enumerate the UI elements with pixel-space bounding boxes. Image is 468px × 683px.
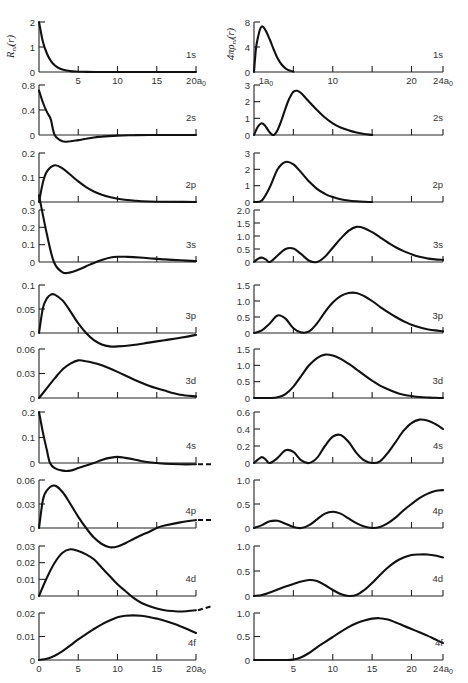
panel-left-2s: 00.40.82s (22, 80, 196, 142)
panel-left-3d: 00.030.063d (17, 344, 197, 404)
y-tick-label: 0.03 (17, 541, 36, 552)
orbital-label: 4d (185, 573, 196, 584)
x-tick-label: 5 (291, 663, 296, 674)
y-tick-label: 0.5 (237, 244, 250, 255)
panel-right-2s: 01232s (245, 80, 444, 141)
panel-left-1s: 0121s5101520a0 (30, 17, 206, 88)
orbital-label: 2s (433, 112, 443, 123)
panel-right-3d: 00.51.01.53d (237, 344, 443, 404)
y-tick-label: 0.5 (237, 376, 250, 387)
y-tick-label: 0.5 (237, 631, 250, 642)
y-tick-label: 0 (245, 523, 250, 534)
y-tick-label: 0 (245, 67, 250, 78)
curve-4d (254, 554, 443, 596)
orbital-label: 4s (433, 440, 443, 451)
orbital-label: 3p (185, 310, 196, 321)
x-tick-label: 20 (406, 75, 417, 86)
y-tick-label: 2 (245, 96, 250, 107)
orbital-label: 2s (186, 112, 196, 123)
y-tick-label: 1.5 (237, 344, 250, 355)
y-tick-label: 0 (30, 591, 35, 602)
y-tick-label: 0.4 (22, 105, 35, 116)
y-tick-label: 0 (245, 257, 250, 268)
y-tick-label: 0.06 (17, 344, 36, 355)
orbital-label: 4f (435, 637, 443, 648)
curve-1s (254, 26, 293, 72)
curve-4s (254, 419, 443, 463)
panel-right-3p: 00.51.01.53p (237, 280, 443, 339)
orbital-label: 4p (432, 505, 443, 516)
x-tick-label: 10 (112, 75, 123, 86)
y-tick-label: 0.3 (22, 205, 35, 216)
panel-left-4d: 00.010.020.034d (17, 541, 213, 612)
x-tick-label: 15 (151, 75, 162, 86)
y-tick-label: 0 (30, 257, 35, 268)
y-tick-label: 0 (245, 328, 250, 339)
continuation-dash (198, 606, 212, 610)
y-tick-label: 0 (30, 130, 35, 141)
y-tick-label: 2 (245, 164, 250, 175)
y-tick-label: 0.02 (17, 608, 36, 619)
panel-right-4s: 00.20.40.64s (237, 407, 443, 469)
curve-2p (254, 162, 372, 202)
orbital-label: 3s (186, 239, 196, 250)
y-tick-label: 1.0 (237, 608, 250, 619)
y-tick-label: 0 (245, 130, 250, 141)
curve-4d (39, 549, 196, 611)
y-tick-label: 0.2 (237, 441, 250, 452)
y-tick-label: 1 (30, 42, 35, 53)
orbital-label: 2p (185, 179, 196, 190)
y-tick-label: 4 (245, 42, 250, 53)
x-tick-label: 10 (112, 663, 123, 674)
curve-3p (254, 293, 443, 333)
curve-4p (39, 486, 196, 548)
radial-wavefunctions-chart: 0121s5101520a000.40.82s00.10.22p00.10.20… (0, 0, 468, 683)
y-tick-label: 0 (30, 458, 35, 469)
y-tick-label: 0.1 (22, 172, 35, 183)
curve-3s (254, 227, 443, 262)
right-y-axis-label: 4πρnl(r) (225, 27, 238, 60)
left-y-axis-label: Rnl(r) (5, 35, 18, 59)
y-tick-label: 0.5 (237, 312, 250, 323)
y-tick-label: 0.2 (22, 148, 35, 159)
panel-right-4f: 00.51.04f510152024a0 (237, 608, 453, 676)
y-tick-label: 0.6 (237, 407, 250, 418)
y-tick-label: 1 (245, 113, 250, 124)
curve-4f (254, 618, 443, 660)
x-tick-label: 5 (76, 663, 81, 674)
y-tick-label: 0.02 (17, 557, 36, 568)
y-tick-label: 0 (245, 655, 250, 666)
y-tick-label: 0 (30, 523, 35, 534)
panel-right-1s: 0481s102024a01a0 (245, 17, 453, 88)
curve-4f (39, 615, 196, 660)
panel-right-2p: 01232p (245, 148, 443, 208)
y-tick-label: 0.03 (17, 368, 36, 379)
orbital-label: 4s (186, 440, 196, 451)
orbital-label: 4d (432, 573, 443, 584)
y-tick-label: 2 (30, 17, 35, 28)
y-tick-label: 0.2 (22, 407, 35, 418)
y-tick-label: 1.0 (237, 296, 250, 307)
y-tick-label: 0.5 (237, 499, 250, 510)
x-tick-label: 10 (327, 663, 338, 674)
panel-right-4d: 00.51.04d (237, 541, 443, 602)
panel-left-3s: 00.10.20.33s (22, 195, 196, 273)
y-tick-label: 0 (30, 655, 35, 666)
y-tick-label: 3 (245, 80, 250, 91)
orbital-label: 4f (188, 637, 196, 648)
y-tick-label: 0.2 (22, 222, 35, 233)
panel-left-3p: 00.050.13p (17, 280, 197, 347)
x-tick-label: 20a0 (186, 75, 206, 87)
panel-right-3s: 00.51.01.52.03s (237, 205, 443, 268)
x-tick-label: 5 (76, 75, 81, 86)
x-tick-label: 20 (406, 663, 417, 674)
curve-1s (39, 22, 196, 72)
curve-3p (39, 294, 196, 347)
y-tick-label: 2.0 (237, 205, 250, 216)
curve-3d (254, 354, 443, 398)
panel-right-4p: 00.51.04p (237, 475, 443, 534)
y-tick-label: 0.8 (22, 80, 35, 91)
orbital-label: 3d (432, 375, 443, 386)
orbital-label: 1s (186, 49, 196, 60)
y-tick-label: 1.0 (237, 541, 250, 552)
